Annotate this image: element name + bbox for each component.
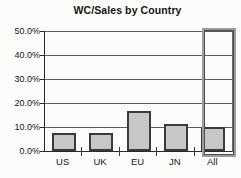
y-axis-tick bbox=[40, 55, 44, 56]
y-axis-label: 20.0% bbox=[2, 98, 40, 108]
x-axis-label: All bbox=[194, 156, 231, 167]
x-axis-label: UK bbox=[81, 156, 118, 167]
bar-eu bbox=[127, 111, 151, 151]
x-axis-label: EU bbox=[119, 156, 156, 167]
highlight-box-all-column bbox=[202, 28, 236, 157]
x-axis-label: JN bbox=[156, 156, 193, 167]
y-axis-label: 30.0% bbox=[2, 74, 40, 84]
y-axis-label: 0.0% bbox=[2, 146, 40, 156]
y-axis-label: 50.0% bbox=[2, 26, 40, 36]
y-axis-tick bbox=[40, 103, 44, 104]
chart-title: WC/Sales by Country bbox=[14, 4, 241, 16]
bar-us bbox=[52, 133, 76, 151]
x-axis-tick bbox=[194, 147, 195, 156]
y-axis-tick bbox=[40, 31, 44, 32]
y-axis-tick bbox=[40, 79, 44, 80]
x-axis-label: US bbox=[44, 156, 81, 167]
y-axis-tick bbox=[40, 127, 44, 128]
x-axis-tick bbox=[156, 147, 157, 156]
x-axis-tick bbox=[119, 147, 120, 156]
y-axis-tick bbox=[40, 151, 44, 152]
chart: WC/Sales by Country 50.0%40.0%30.0%20.0%… bbox=[0, 0, 241, 178]
x-axis-tick bbox=[81, 147, 82, 156]
bar-uk bbox=[89, 133, 113, 151]
y-axis-label: 10.0% bbox=[2, 122, 40, 132]
bar-jn bbox=[164, 124, 188, 151]
y-axis-label: 40.0% bbox=[2, 50, 40, 60]
